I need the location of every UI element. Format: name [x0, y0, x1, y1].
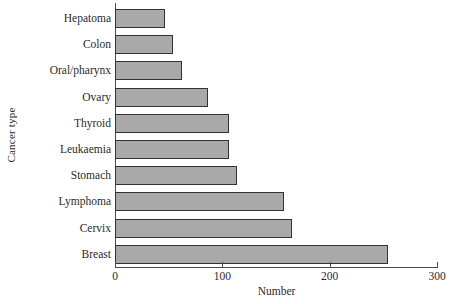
bar-row — [115, 219, 437, 238]
bar-chart: Cancer type HepatomaColonOral/pharynxOva… — [0, 0, 455, 304]
bar-row — [115, 35, 437, 54]
category-label: Leukaemia — [60, 140, 111, 159]
x-axis-tick-label: 300 — [428, 270, 445, 282]
bar — [115, 166, 237, 185]
bar-row — [115, 114, 437, 133]
bar-row — [115, 245, 437, 264]
bar-row — [115, 166, 437, 185]
y-axis-title-text: Cancer type — [5, 107, 17, 162]
x-axis-tick — [115, 262, 116, 268]
bar — [115, 9, 165, 28]
bar — [115, 35, 173, 54]
category-label: Breast — [82, 245, 111, 264]
y-axis-title: Cancer type — [0, 0, 22, 270]
category-label: Oral/pharynx — [50, 61, 111, 80]
category-label: Lymphoma — [59, 192, 111, 211]
x-axis-title: Number — [115, 285, 438, 297]
category-label: Hepatoma — [64, 9, 111, 28]
bar — [115, 192, 284, 211]
x-axis-tick — [330, 262, 331, 268]
bar-row — [115, 140, 437, 159]
bar — [115, 140, 229, 159]
bar-row — [115, 61, 437, 80]
bar — [115, 245, 388, 264]
category-label: Stomach — [71, 166, 111, 185]
x-axis-tick — [437, 262, 438, 268]
x-axis-line — [115, 267, 438, 268]
category-label: Cervix — [80, 219, 111, 238]
x-axis-tick-label: 0 — [112, 270, 118, 282]
x-axis-tick-label: 200 — [321, 270, 338, 282]
bar — [115, 219, 292, 238]
x-axis-tick-label: 100 — [214, 270, 231, 282]
x-axis-tick — [222, 262, 223, 268]
bar-row — [115, 9, 437, 28]
category-label: Colon — [83, 35, 111, 54]
bar-row — [115, 88, 437, 107]
bar — [115, 114, 229, 133]
bar — [115, 88, 208, 107]
bar — [115, 61, 182, 80]
category-label: Thyroid — [74, 114, 111, 133]
bar-row — [115, 192, 437, 211]
category-label: Ovary — [82, 88, 111, 107]
